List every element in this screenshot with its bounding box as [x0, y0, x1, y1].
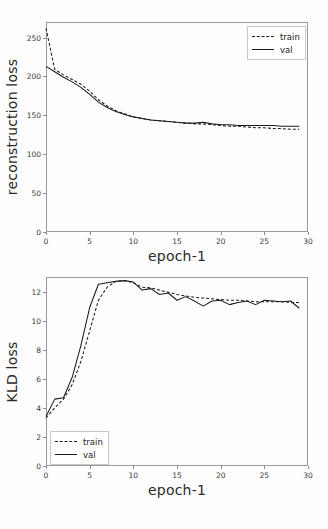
kld-loss-x-axis-label: epoch-1 — [46, 482, 308, 498]
y-tick-mark — [43, 321, 46, 322]
y-tick-label: 10 — [16, 316, 41, 325]
y-tick-mark — [43, 76, 46, 77]
x-tick-mark — [177, 232, 178, 235]
x-tick-label: 15 — [172, 471, 182, 480]
x-tick-mark — [133, 466, 134, 469]
kld-loss-plot-wrap: KLD loss epoch-1 train val — [0, 265, 328, 529]
legend-label-train: train — [83, 437, 103, 447]
y-tick-label: 0 — [16, 462, 41, 471]
legend-entry-train: train — [55, 435, 103, 448]
y-tick-label: 50 — [16, 189, 41, 198]
x-tick-mark — [177, 466, 178, 469]
x-tick-label: 30 — [303, 237, 313, 246]
legend-label-val: val — [83, 450, 96, 460]
x-tick-label: 30 — [303, 471, 313, 480]
x-tick-mark — [308, 232, 309, 235]
x-tick-mark — [90, 466, 91, 469]
y-tick-mark — [43, 193, 46, 194]
y-tick-mark — [43, 379, 46, 380]
legend-entry-train: train — [252, 30, 300, 43]
y-tick-mark — [43, 292, 46, 293]
x-tick-label: 0 — [44, 471, 49, 480]
y-tick-mark — [43, 408, 46, 409]
x-tick-label: 10 — [129, 471, 139, 480]
y-tick-label: 200 — [16, 72, 41, 81]
series-line-val — [46, 281, 299, 417]
x-tick-mark — [264, 466, 265, 469]
dashed-line-key-icon — [55, 441, 77, 442]
x-tick-label: 5 — [87, 471, 92, 480]
reconstruction-loss-x-axis-label: epoch-1 — [46, 248, 308, 264]
x-tick-mark — [221, 232, 222, 235]
x-tick-label: 25 — [260, 471, 270, 480]
y-tick-mark — [43, 466, 46, 467]
y-tick-mark — [43, 154, 46, 155]
y-tick-mark — [43, 232, 46, 233]
x-tick-mark — [221, 466, 222, 469]
y-tick-mark — [43, 437, 46, 438]
y-tick-label: 6 — [16, 374, 41, 383]
y-tick-label: 150 — [16, 111, 41, 120]
kld-loss-legend: train val — [50, 431, 109, 465]
reconstruction-loss-legend: train val — [247, 26, 306, 60]
reconstruction-loss-plot-wrap: reconstruction loss epoch-1 train val — [0, 0, 328, 265]
x-tick-mark — [46, 232, 47, 235]
x-tick-label: 10 — [129, 237, 139, 246]
legend-entry-val: val — [55, 448, 103, 461]
solid-line-key-icon — [252, 49, 274, 50]
x-tick-label: 20 — [216, 237, 226, 246]
solid-line-key-icon — [55, 454, 77, 455]
x-tick-mark — [133, 232, 134, 235]
legend-label-val: val — [280, 45, 293, 55]
x-tick-label: 0 — [44, 237, 49, 246]
series-line-val — [46, 66, 299, 126]
x-tick-label: 25 — [260, 237, 270, 246]
x-tick-label: 15 — [172, 237, 182, 246]
y-tick-mark — [43, 38, 46, 39]
y-tick-label: 250 — [16, 33, 41, 42]
x-tick-label: 5 — [87, 237, 92, 246]
y-tick-label: 4 — [16, 403, 41, 412]
x-tick-mark — [46, 466, 47, 469]
y-tick-label: 100 — [16, 150, 41, 159]
x-tick-mark — [90, 232, 91, 235]
y-tick-label: 0 — [16, 228, 41, 237]
x-tick-label: 20 — [216, 471, 226, 480]
dashed-line-key-icon — [252, 36, 274, 37]
kld-loss-figure: KLD loss epoch-1 train val 0510152025300… — [0, 265, 328, 529]
y-tick-mark — [43, 115, 46, 116]
y-tick-label: 12 — [16, 287, 41, 296]
y-tick-label: 2 — [16, 432, 41, 441]
legend-label-train: train — [280, 32, 300, 42]
reconstruction-loss-figure: reconstruction loss epoch-1 train val 05… — [0, 0, 328, 265]
legend-entry-val: val — [252, 43, 300, 56]
y-tick-label: 8 — [16, 345, 41, 354]
y-tick-mark — [43, 350, 46, 351]
x-tick-mark — [308, 466, 309, 469]
x-tick-mark — [264, 232, 265, 235]
